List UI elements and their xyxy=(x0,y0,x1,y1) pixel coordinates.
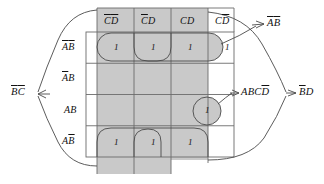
term-label-b-bar-c-bar: BC xyxy=(11,87,25,98)
kmap-cell-r0c0: 1 xyxy=(114,43,119,52)
row-header-2: AB xyxy=(64,105,77,115)
term-label-abcd-bar: ABCD xyxy=(241,87,269,98)
term-label-a-bar-b-bar: AB xyxy=(267,18,280,29)
column-header-0: CD xyxy=(104,16,118,26)
column-header-2: CD xyxy=(180,16,194,26)
connector-abcd-bar xyxy=(218,93,232,104)
kmap-cell-r3c1: 1 xyxy=(151,138,156,147)
kmap-cell-r0c3: 1 xyxy=(225,43,230,52)
column-header-3: CD xyxy=(215,16,229,26)
row-header-3: AB xyxy=(62,136,75,146)
kmap-cell-r2c3: 1 xyxy=(205,106,210,115)
group-row3-inner-outline xyxy=(134,129,161,157)
term-label-b-bar-d: BD xyxy=(299,87,313,98)
kmap-cell-r0c1: 1 xyxy=(151,43,156,52)
kmap-figure: CD CD CD CD AB AB AB AB 1 1 1 1 1 1 1 1 … xyxy=(0,0,324,184)
row-header-0: AB xyxy=(62,42,75,52)
kmap-cell-r3c2: 1 xyxy=(188,138,193,147)
row-header-1: AB xyxy=(62,73,75,83)
column-header-1: CD xyxy=(141,16,155,26)
kmap-cell-r0c2: 1 xyxy=(188,43,193,52)
kmap-cell-r3c0: 1 xyxy=(114,138,119,147)
